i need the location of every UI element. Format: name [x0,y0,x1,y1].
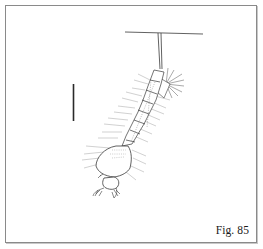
abdomen [122,70,164,146]
larva-illustration [0,0,263,249]
water-surface-line [125,32,203,34]
siphon [158,33,162,69]
head [103,177,119,189]
figure-caption: Fig. 85 [216,224,249,236]
thorax [96,146,131,177]
